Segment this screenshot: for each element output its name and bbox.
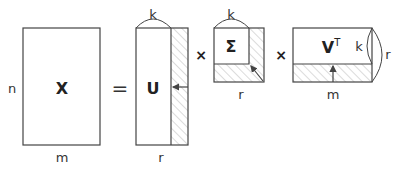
matrix-sigma-label: Σ [226, 37, 237, 56]
svd-diagram: X n m = U k r × Σ k r × VT k r [0, 0, 399, 174]
matrix-x: X n m [8, 28, 100, 165]
sigma-r-label: r [238, 87, 244, 102]
times-sign-2: × [275, 47, 287, 63]
vt-r-brace [372, 28, 382, 82]
vt-k-brace [367, 28, 372, 64]
matrix-x-label: X [56, 79, 69, 98]
u-k-label: k [149, 7, 157, 22]
matrix-vt-label: VT [322, 37, 341, 57]
times-sign-1: × [195, 47, 207, 63]
rows-label-n: n [8, 81, 16, 96]
matrix-u: U k r [136, 7, 188, 165]
vt-k-label: k [355, 39, 363, 54]
cols-label-m: m [56, 150, 69, 165]
equals-sign: = [112, 76, 129, 100]
matrix-u-label: U [147, 79, 160, 98]
sigma-k-label: k [227, 7, 235, 22]
matrix-vt: VT k r m [293, 28, 391, 102]
vt-r-label: r [385, 47, 391, 62]
matrix-sigma: Σ k r [214, 7, 264, 102]
vt-m-label: m [327, 87, 340, 102]
u-r-label: r [158, 150, 164, 165]
